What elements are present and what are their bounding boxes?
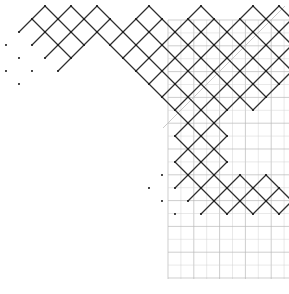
figure-canvas xyxy=(0,0,289,294)
lattice-vertex-dot xyxy=(265,18,267,20)
lattice-vertex-dot xyxy=(200,31,202,33)
lattice-vertex-dot xyxy=(265,44,267,46)
lattice-vertex-dot xyxy=(239,96,241,98)
lattice-vertex-dot xyxy=(213,122,215,124)
lattice-vertex-dot xyxy=(213,200,215,202)
lattice-vertex-dot xyxy=(161,44,163,46)
lattice-vertex-dot xyxy=(226,187,228,189)
lattice-vertex-dot xyxy=(18,57,20,59)
lattice-vertex-dot xyxy=(226,83,228,85)
lattice-vertex-dot xyxy=(252,31,254,33)
lattice-vertex-dot xyxy=(226,31,228,33)
lattice-vertex-dot xyxy=(187,122,189,124)
lattice-vertex-dot xyxy=(213,18,215,20)
lattice-vertex-dot xyxy=(174,135,176,137)
lattice-vertex-dot xyxy=(31,44,33,46)
lattice-vertex-dot xyxy=(161,200,163,202)
lattice-vertex-dot xyxy=(109,18,111,20)
lattice-vertex-dot xyxy=(70,57,72,59)
lattice-vertex-dot xyxy=(265,96,267,98)
lattice-vertex-dot xyxy=(200,57,202,59)
lattice-vertex-dot xyxy=(278,187,280,189)
lattice-vertex-dot xyxy=(44,31,46,33)
lattice-vertex-dot xyxy=(200,83,202,85)
lattice-vertex-dot xyxy=(57,18,59,20)
lattice-vertex-dot xyxy=(213,70,215,72)
lattice-vertex-dot xyxy=(278,213,280,215)
lattice-vertex-dot xyxy=(265,200,267,202)
lattice-vertex-dot xyxy=(278,57,280,59)
lattice-vertex-dot xyxy=(135,70,137,72)
lattice-vertex-dot xyxy=(96,5,98,7)
lattice-vertex-dot xyxy=(161,18,163,20)
lattice-vertex-dot xyxy=(200,213,202,215)
lattice-vertex-dot xyxy=(5,44,7,46)
lattice-vertex-dot xyxy=(200,135,202,137)
lattice-vertex-dot xyxy=(226,109,228,111)
lattice-vertex-dot xyxy=(18,31,20,33)
lattice-vertex-dot xyxy=(265,70,267,72)
lattice-vertex-dot xyxy=(148,83,150,85)
lattice-vertex-dot xyxy=(200,161,202,163)
lattice-vertex-dot xyxy=(148,57,150,59)
lattice-vertex-dot xyxy=(135,18,137,20)
lattice-vertex-dot xyxy=(161,70,163,72)
lattice-vertex-dot xyxy=(122,57,124,59)
lattice-vertex-dot xyxy=(109,44,111,46)
lattice-vertex-dot xyxy=(187,174,189,176)
lattice-vertex-dot xyxy=(135,44,137,46)
lattice-vertex-dot xyxy=(226,57,228,59)
lattice-vertex-dot xyxy=(31,70,33,72)
lattice-diagram-svg xyxy=(0,0,289,294)
lattice-vertex-dot xyxy=(278,5,280,7)
lattice-vertex-dot xyxy=(44,57,46,59)
lattice-vertex-dot xyxy=(70,5,72,7)
lattice-vertex-dot xyxy=(278,31,280,33)
lattice-vertex-dot xyxy=(200,109,202,111)
lattice-vertex-dot xyxy=(148,5,150,7)
lattice-vertex-dot xyxy=(174,161,176,163)
lattice-vertex-dot xyxy=(57,70,59,72)
lattice-vertex-dot xyxy=(239,200,241,202)
lattice-vertex-dot xyxy=(148,31,150,33)
lattice-vertex-dot xyxy=(213,96,215,98)
lattice-vertex-dot xyxy=(226,161,228,163)
lattice-vertex-dot xyxy=(44,5,46,7)
lattice-vertex-dot xyxy=(213,44,215,46)
lattice-vertex-dot xyxy=(187,18,189,20)
lattice-vertex-dot xyxy=(83,44,85,46)
lattice-vertex-dot xyxy=(200,5,202,7)
lattice-vertex-dot xyxy=(122,31,124,33)
lattice-vertex-dot xyxy=(161,174,163,176)
lattice-vertex-dot xyxy=(239,44,241,46)
lattice-vertex-dot xyxy=(252,57,254,59)
lattice-vertex-dot xyxy=(200,187,202,189)
lattice-vertex-dot xyxy=(174,57,176,59)
lattice-vertex-dot xyxy=(161,96,163,98)
lattice-vertex-dot xyxy=(252,187,254,189)
lattice-vertex-dot xyxy=(187,200,189,202)
lattice-vertex-dot xyxy=(174,83,176,85)
lattice-vertex-dot xyxy=(187,148,189,150)
lattice-vertex-dot xyxy=(18,83,20,85)
lattice-vertex-dot xyxy=(278,83,280,85)
lattice-vertex-dot xyxy=(148,187,150,189)
lattice-vertex-dot xyxy=(174,213,176,215)
lattice-vertex-dot xyxy=(96,31,98,33)
lattice-vertex-dot xyxy=(174,109,176,111)
lattice-vertex-dot xyxy=(83,18,85,20)
lattice-vertex-dot xyxy=(187,70,189,72)
lattice-vertex-dot xyxy=(239,18,241,20)
lattice-vertex-dot xyxy=(239,174,241,176)
lattice-vertex-dot xyxy=(31,18,33,20)
lattice-vertex-dot xyxy=(226,213,228,215)
lattice-vertex-dot xyxy=(252,83,254,85)
lattice-vertex-dot xyxy=(174,31,176,33)
lattice-vertex-dot xyxy=(5,70,7,72)
lattice-vertex-dot xyxy=(265,174,267,176)
lattice-vertex-dot xyxy=(252,213,254,215)
lattice-vertex-dot xyxy=(252,109,254,111)
lattice-vertex-dot xyxy=(57,44,59,46)
lattice-vertex-dot xyxy=(187,44,189,46)
lattice-vertex-dot xyxy=(70,31,72,33)
